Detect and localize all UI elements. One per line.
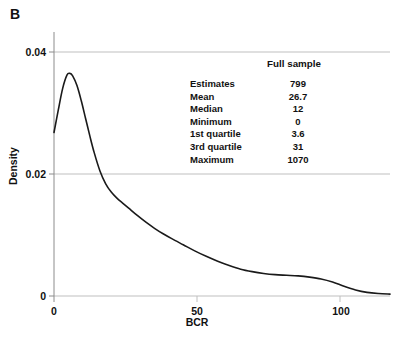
stats-row: 1st quartile3.6	[190, 128, 350, 141]
stats-row-label: Estimates	[190, 78, 262, 91]
stats-row-label: Median	[190, 103, 262, 116]
stats-table-header: Full sample	[190, 58, 350, 69]
stats-row-label: Minimum	[190, 116, 262, 129]
stats-row: Median12	[190, 103, 350, 116]
stats-row-value: 1070	[262, 154, 334, 167]
y-axis-title: Density	[7, 131, 19, 201]
stats-row: Mean26.7	[190, 91, 350, 104]
stats-row-value: 26.7	[262, 91, 334, 104]
stats-row: Estimates799	[190, 78, 350, 91]
stats-row-value: 12	[262, 103, 334, 116]
stats-row: 3rd quartile31	[190, 141, 350, 154]
figure-panel-b: B 0.04 0.02 0 0 50 100 BCR Density Full …	[0, 0, 394, 339]
stats-row: Maximum1070	[190, 154, 350, 167]
stats-row-label: Mean	[190, 91, 262, 104]
stats-rows-container: Estimates799Mean26.7Median12Minimum01st …	[190, 78, 350, 166]
y-tick-label-0.04: 0.04	[4, 46, 46, 58]
stats-row-value: 799	[262, 78, 334, 91]
stats-row-label: 3rd quartile	[190, 141, 262, 154]
stats-row-value: 31	[262, 141, 334, 154]
stats-row-label: Maximum	[190, 154, 262, 167]
stats-row: Minimum0	[190, 116, 350, 129]
stats-row-label: 1st quartile	[190, 128, 262, 141]
x-axis-title: BCR	[0, 316, 394, 328]
density-plot	[0, 0, 394, 339]
stats-row-value: 3.6	[262, 128, 334, 141]
y-tick-label-0: 0	[4, 290, 46, 302]
stats-row-value: 0	[262, 116, 334, 129]
summary-stats-table: Full sample Estimates799Mean26.7Median12…	[190, 58, 350, 166]
